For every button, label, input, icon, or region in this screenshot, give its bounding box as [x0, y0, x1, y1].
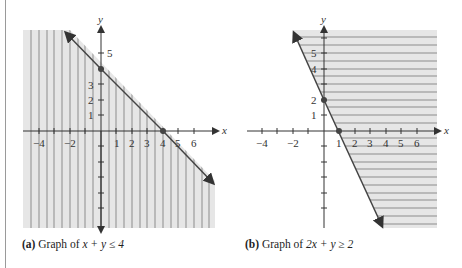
caption-a-text: Graph of — [38, 238, 82, 250]
shaded-region-b — [280, 30, 437, 228]
graph-b: x y −4 −2 1 2 3 4 5 6 1 2 4 5 — [0, 0, 462, 268]
x-tick-label: −4 — [256, 137, 268, 149]
y-tick-label: 2 — [311, 94, 317, 106]
x-tick-label: 2 — [352, 137, 358, 149]
y-axis-label-b: y — [320, 13, 326, 25]
point-0-2 — [321, 97, 327, 103]
y-tick-label: 5 — [311, 47, 317, 59]
y-tick-label: 4 — [311, 63, 317, 75]
caption-a-math: x + y ≤ 4 — [82, 238, 124, 250]
x-tick-label: 4 — [383, 137, 389, 149]
caption-b: (b) Graph of 2x + y ≥ 2 — [245, 238, 353, 250]
caption-a: (a) Graph of x + y ≤ 4 — [22, 238, 124, 250]
caption-b-label: (b) — [245, 238, 259, 250]
x-tick-label: 6 — [414, 137, 420, 149]
x-tick-label: 1 — [336, 137, 342, 149]
x-axis-label-b: x — [443, 124, 449, 136]
x-tick-label: 3 — [367, 137, 373, 149]
x-tick-label: 5 — [398, 137, 404, 149]
y-tick-label: 1 — [311, 109, 317, 121]
caption-b-text: Graph of — [262, 238, 306, 250]
caption-b-math: 2x + y ≥ 2 — [306, 238, 353, 250]
point-1-0 — [336, 128, 342, 134]
caption-a-label: (a) — [22, 238, 35, 250]
x-tick-label: −2 — [287, 137, 299, 149]
